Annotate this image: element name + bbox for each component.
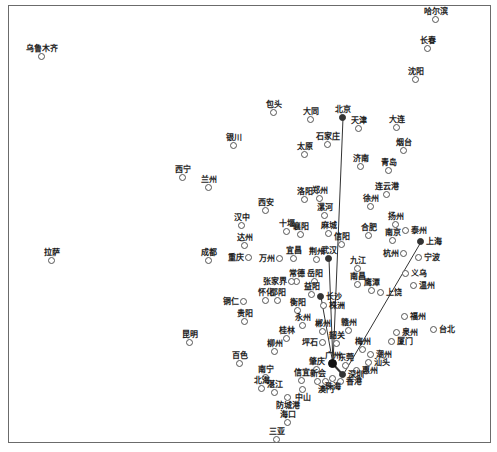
city-label: 合肥 xyxy=(361,223,377,232)
city-label: 哈尔滨 xyxy=(424,7,448,16)
city-label: 福州 xyxy=(410,312,426,321)
city-circle-icon xyxy=(319,339,326,346)
city-circle-icon xyxy=(179,174,186,181)
city-label: 扬州 xyxy=(388,212,404,221)
city-circle-icon xyxy=(354,281,361,288)
hub-dot-icon xyxy=(339,371,346,378)
city-circle-icon xyxy=(357,163,364,170)
city-label: 宁波 xyxy=(424,253,440,262)
city-label: 常德 xyxy=(289,269,305,278)
city-circle-icon xyxy=(385,167,392,174)
city-circle-icon xyxy=(230,142,237,149)
city-label: 达州 xyxy=(237,233,253,242)
city-label: 东莞 xyxy=(338,353,354,362)
city-circle-icon xyxy=(283,228,290,235)
city-label: 成都 xyxy=(201,248,217,257)
city-label: 台北 xyxy=(439,325,455,334)
city-label: 防城港 xyxy=(276,401,300,410)
city-label: 海口 xyxy=(280,410,296,419)
city-label: 义乌 xyxy=(411,269,427,278)
city-circle-icon xyxy=(401,313,408,320)
city-circle-icon xyxy=(321,212,328,219)
city-circle-icon xyxy=(365,359,372,366)
city-circle-icon xyxy=(245,254,252,261)
city-circle-icon xyxy=(402,270,409,277)
city-label: 天津 xyxy=(351,116,367,125)
city-circle-icon xyxy=(432,16,439,23)
city-circle-icon xyxy=(412,76,419,83)
city-circle-icon xyxy=(424,45,431,52)
city-label: 连云港 xyxy=(375,182,399,191)
city-circle-icon xyxy=(283,335,290,342)
city-circle-icon xyxy=(392,221,399,228)
city-label: 坪石 xyxy=(302,338,318,347)
city-label: 泉州 xyxy=(402,328,418,337)
city-circle-icon xyxy=(359,346,366,353)
city-label: 大同 xyxy=(303,107,319,116)
city-circle-icon xyxy=(368,287,375,294)
city-circle-icon xyxy=(415,254,422,261)
city-circle-icon xyxy=(241,242,248,249)
city-circle-icon xyxy=(320,302,327,309)
city-circle-icon xyxy=(313,256,320,263)
city-label: 武汉 xyxy=(321,246,337,255)
city-circle-icon xyxy=(236,360,243,367)
city-label: 青岛 xyxy=(381,158,397,167)
city-label: 大连 xyxy=(389,115,405,124)
city-label: 信阳 xyxy=(334,232,350,241)
city-label: 拉萨 xyxy=(44,248,60,257)
city-label: 株洲 xyxy=(329,301,345,310)
city-circle-icon xyxy=(297,231,304,238)
city-label: 张家界 xyxy=(263,277,287,286)
city-circle-icon xyxy=(367,351,374,358)
city-circle-icon xyxy=(338,241,345,248)
city-circle-icon xyxy=(329,375,336,382)
city-label: 百色 xyxy=(232,351,248,360)
city-circle-icon xyxy=(314,378,321,385)
city-circle-icon xyxy=(299,322,306,329)
city-circle-icon xyxy=(377,289,384,296)
city-circle-icon xyxy=(298,377,305,384)
city-label: 西安 xyxy=(258,198,274,207)
city-label: 桂林 xyxy=(279,326,295,335)
city-label: 湛江 xyxy=(267,380,283,389)
city-label: 韶关 xyxy=(329,331,345,340)
city-label: 南京 xyxy=(385,228,401,237)
city-label: 包头 xyxy=(266,100,282,109)
city-label: 上饶 xyxy=(386,288,402,297)
city-circle-icon xyxy=(262,297,269,304)
city-circle-icon xyxy=(307,116,314,123)
city-circle-icon xyxy=(271,389,278,396)
city-label: 郑州 xyxy=(312,186,328,195)
city-circle-icon xyxy=(393,124,400,131)
city-circle-icon xyxy=(262,207,269,214)
city-label: 上海 xyxy=(426,237,442,246)
city-label: 赣州 xyxy=(341,318,357,327)
city-label: 兰州 xyxy=(201,175,217,184)
city-label: 南宁 xyxy=(258,365,274,374)
city-circle-icon xyxy=(354,265,361,272)
city-label: 永州 xyxy=(295,313,311,322)
hub-dot-icon xyxy=(339,114,346,121)
city-circle-icon xyxy=(345,327,352,334)
city-circle-icon xyxy=(299,386,306,393)
city-label: 衡阳 xyxy=(290,298,306,307)
city-label: 麻城 xyxy=(321,221,337,230)
city-label: 长春 xyxy=(420,36,436,45)
city-label: 西宁 xyxy=(175,165,191,174)
city-circle-icon xyxy=(241,318,248,325)
city-label: 厦门 xyxy=(397,337,413,346)
city-label: 信宜 xyxy=(294,368,310,377)
city-circle-icon xyxy=(288,278,295,285)
city-circle-icon xyxy=(365,232,372,239)
city-label: 益阳 xyxy=(304,282,320,291)
city-label: 万州 xyxy=(259,254,275,263)
city-circle-icon xyxy=(324,141,331,148)
city-circle-icon xyxy=(319,328,326,335)
city-circle-icon xyxy=(276,255,283,262)
city-circle-icon xyxy=(205,184,212,191)
city-label: 贵阳 xyxy=(237,309,253,318)
city-circle-icon xyxy=(430,326,437,333)
city-circle-icon xyxy=(240,298,247,305)
city-label: 沈阳 xyxy=(408,67,424,76)
